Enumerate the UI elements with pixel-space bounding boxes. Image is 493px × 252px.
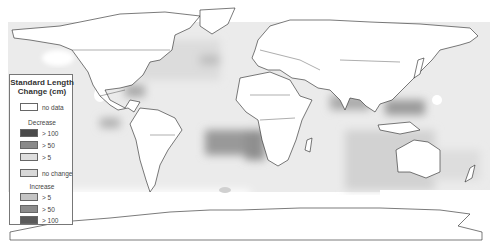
legend-item-decrease-50: > 50 <box>20 140 55 150</box>
legend-label: no change <box>42 170 72 177</box>
swatch-increase-5 <box>20 193 38 201</box>
swatch-decrease-50 <box>20 141 38 149</box>
legend-item-decrease-100: > 100 <box>20 128 58 138</box>
world-map <box>0 0 493 252</box>
legend-label: > 50 <box>42 142 55 149</box>
legend-item-increase-50: > 50 <box>20 204 55 214</box>
swatch-increase-100 <box>20 216 38 224</box>
legend-title-line1: Standard Length <box>10 78 74 87</box>
legend-item-decrease-5: > 5 <box>20 152 51 162</box>
legend-item-increase-5: > 5 <box>20 192 51 202</box>
swatch-increase-50 <box>20 205 38 213</box>
legend-label: > 100 <box>42 217 58 224</box>
legend-label: > 5 <box>42 194 51 201</box>
legend-label: no data <box>42 104 64 111</box>
legend-title: Standard Length Change (cm) <box>10 78 74 96</box>
legend-item-increase-100: > 100 <box>20 215 58 225</box>
legend-item-no-data: no data <box>20 102 64 112</box>
legend-decrease-heading: Decrease <box>10 119 74 126</box>
map-legend: Standard Length Change (cm) no data Decr… <box>9 74 73 225</box>
legend-label: > 100 <box>42 130 58 137</box>
swatch-decrease-100 <box>20 129 38 137</box>
legend-label: > 50 <box>42 206 55 213</box>
legend-increase-heading: Increase <box>10 183 74 190</box>
swatch-decrease-5 <box>20 153 38 161</box>
legend-title-line2: Change (cm) <box>10 87 74 96</box>
swatch-no-change <box>20 169 38 177</box>
legend-label: > 5 <box>42 154 51 161</box>
legend-item-no-change: no change <box>20 168 72 178</box>
swatch-no-data <box>20 103 38 111</box>
